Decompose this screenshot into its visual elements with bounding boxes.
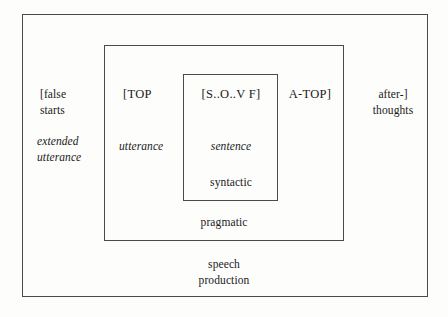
speech-production-diagram: [false starts extended utterance after-]… — [0, 0, 448, 317]
label-topic-open-bracket: [TOP — [123, 86, 152, 104]
label-extended-utterance: extended utterance — [37, 133, 81, 166]
label-speech-production-level: speech production — [199, 256, 250, 289]
label-pragmatic-level: pragmatic — [201, 214, 248, 230]
label-utterance: utterance — [119, 138, 163, 154]
label-antitopic-close-bracket: A-TOP] — [289, 86, 332, 104]
label-subject-object-verb-focus: [S..O..V F] — [202, 86, 261, 104]
label-sentence: sentence — [211, 138, 251, 154]
label-afterthoughts: after-] thoughts — [373, 86, 413, 119]
label-false-starts: [false starts — [40, 86, 66, 119]
label-syntactic-level: syntactic — [210, 174, 252, 190]
